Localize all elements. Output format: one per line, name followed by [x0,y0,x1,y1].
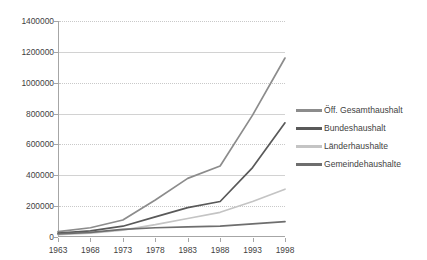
legend-item[interactable]: Öff. Gesamthaushalt [296,101,427,119]
y-axis-tick-label: 600000 [2,140,54,148]
x-axis-tick-mark [285,238,286,242]
x-axis-tick-label: 1998 [265,246,305,254]
x-axis-tick-mark [123,238,124,242]
legend-item-label: Öff. Gesamthaushalt [324,105,403,115]
series-layer [58,21,285,237]
legend-item[interactable]: Bundeshaushalt [296,119,427,137]
y-axis-tick-label: 1200000 [2,48,54,56]
x-axis-tick-mark [253,238,254,242]
x-axis-tick-mark [188,238,189,242]
legend-item-label: Bundeshaushalt [324,123,386,133]
legend-item[interactable]: Länderhaushalte [296,137,427,155]
chart-legend: Öff. GesamthaushaltBundeshaushaltLänderh… [296,101,427,173]
y-axis-tick-label: 800000 [2,110,54,118]
legend-line-swatch [296,109,322,112]
legend-line-swatch [296,163,322,166]
x-axis-tick-mark [155,238,156,242]
x-axis-tick-mark [90,238,91,242]
y-axis: 0200000400000600000800000100000012000001… [0,21,54,237]
x-axis-tick-mark [58,238,59,242]
y-axis-tick-label: 1400000 [2,17,54,25]
y-axis-tick-label: 0 [2,233,54,241]
y-axis-tick-label: 400000 [2,171,54,179]
y-axis-tick-label: 1000000 [2,79,54,87]
line-chart: 0200000400000600000800000100000012000001… [0,0,427,260]
x-axis: 19631968197319781983198819931998 [58,238,285,260]
legend-item[interactable]: Gemeindehaushalte [296,155,427,173]
legend-item-label: Gemeindehaushalte [324,159,401,169]
series-line [58,58,285,232]
series-line [58,123,285,233]
legend-line-swatch [296,145,322,148]
y-axis-tick-label: 200000 [2,202,54,210]
legend-item-label: Länderhaushalte [324,141,388,151]
legend-line-swatch [296,127,322,130]
x-axis-tick-mark [220,238,221,242]
